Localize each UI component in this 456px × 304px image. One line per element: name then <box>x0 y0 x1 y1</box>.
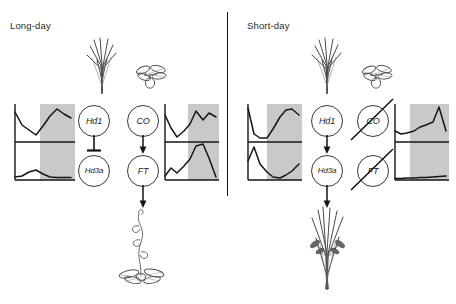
gene-node-hd3a-short-day[interactable]: Hd3a <box>311 155 343 187</box>
edge-co-activates-ft <box>135 135 151 157</box>
panel-title-long-day: Long-day <box>10 20 51 31</box>
chart-short-day-co-ft <box>393 104 449 180</box>
gene-label-hd3a-short-day: Hd3a <box>318 167 336 175</box>
arabidopsis-rosette-short-day <box>360 62 394 92</box>
rice-seedling-long-day <box>80 36 124 94</box>
photoperiod-flowering-diagram: Long-day <box>0 0 456 304</box>
crossout-ft-short-day <box>348 146 396 194</box>
edge-hd1-inhibits-hd3a <box>86 135 102 157</box>
rice-flowering-short-day <box>296 204 358 290</box>
gene-label-hd1-short-day: Hd1 <box>319 117 335 126</box>
chart-long-day-hd1-hd3a <box>13 104 75 180</box>
panel-divider <box>227 12 228 196</box>
gene-label-ft-long-day: FT <box>138 167 149 176</box>
gene-node-ft-long-day[interactable]: FT <box>127 155 159 187</box>
gene-node-hd1-short-day[interactable]: Hd1 <box>311 105 343 137</box>
gene-node-co-long-day[interactable]: CO <box>127 105 159 137</box>
panel-title-short-day: Short-day <box>247 20 290 31</box>
arabidopsis-flowering-long-day <box>108 206 174 284</box>
edge-hd1-activates-hd3a <box>319 135 335 157</box>
crossout-co-short-day <box>348 96 396 144</box>
gene-label-co-long-day: CO <box>136 117 149 126</box>
gene-label-hd1-long-day: Hd1 <box>86 117 102 126</box>
chart-long-day-co-ft <box>163 104 219 180</box>
gene-label-hd3a-long-day: Hd3a <box>85 167 103 175</box>
arabidopsis-rosette-long-day <box>134 62 168 92</box>
gene-node-hd3a-long-day[interactable]: Hd3a <box>78 155 110 187</box>
gene-node-hd1-long-day[interactable]: Hd1 <box>78 105 110 137</box>
rice-seedling-short-day <box>305 36 349 94</box>
chart-short-day-hd1-hd3a <box>246 104 302 180</box>
